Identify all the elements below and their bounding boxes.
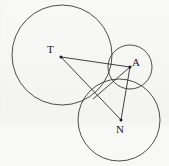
segment-t-n bbox=[61, 57, 121, 120]
circle-n bbox=[78, 79, 160, 161]
vertex-label-n: N bbox=[116, 124, 124, 135]
segment-a-tangency-point bbox=[93, 67, 130, 99]
point-n-dot bbox=[120, 119, 123, 122]
point-t-dot bbox=[60, 56, 63, 59]
vertex-label-a: A bbox=[132, 57, 140, 68]
segment-t-a bbox=[61, 57, 130, 67]
geometry-canvas bbox=[0, 0, 169, 166]
segment-a-n bbox=[121, 67, 130, 120]
circle-t bbox=[12, 5, 112, 105]
vertex-label-t: T bbox=[47, 44, 54, 55]
geometry-figure: T A N bbox=[0, 0, 169, 166]
